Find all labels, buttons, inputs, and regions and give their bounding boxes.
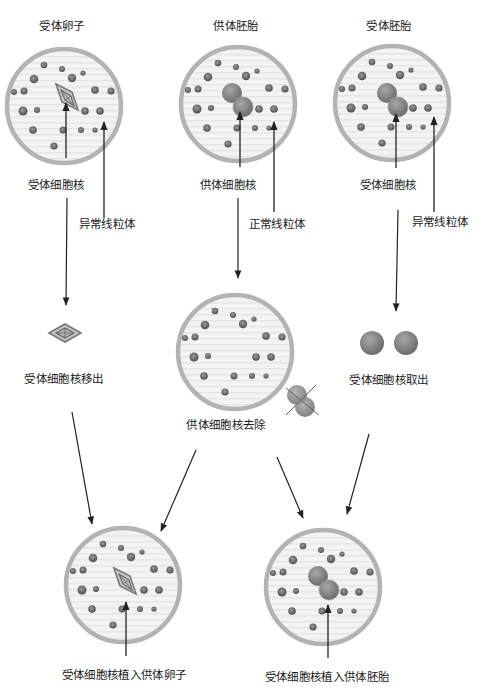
step-implant-into-egg: 受体细胞核植入供体卵子 <box>62 666 186 682</box>
step-nucleus-removed: 受体细胞核移出 <box>24 370 103 386</box>
donor-embryo-cell <box>181 47 295 161</box>
title-recipient-embryo: 受体胚胎 <box>366 17 411 33</box>
diagram-graphics <box>0 0 482 688</box>
process-arrow <box>277 457 303 518</box>
recipient-embryo-cell <box>335 46 449 160</box>
extracted-recipient-pronuclei <box>360 331 418 355</box>
step-nucleus-extracted: 受体细胞核取出 <box>349 371 428 387</box>
discarded-donor-nuclei <box>286 385 319 417</box>
label-abnormal-mitochondria-2: 异常线粒体 <box>412 213 469 229</box>
process-arrow <box>161 450 196 531</box>
label-recipient-nucleus: 受体细胞核 <box>28 176 85 192</box>
label-abnormal-mitochondria: 异常线粒体 <box>79 215 136 231</box>
process-arrow <box>396 210 398 311</box>
label-normal-mitochondria: 正常线粒体 <box>249 215 306 231</box>
title-donor-embryo: 供体胚胎 <box>213 17 258 33</box>
label-recipient-nucleus-2: 受体细胞核 <box>360 176 417 192</box>
mitochondrial-replacement-diagram: 受体卵子 供体胚胎 受体胚胎 受体细胞核 异常线粒体 供体细胞核 正常线粒体 受… <box>0 0 482 688</box>
reconstructed-embryo <box>266 530 380 644</box>
step-implant-into-embryo: 受体细胞核植入供体胚胎 <box>265 668 389 684</box>
label-donor-nucleus: 供体细胞核 <box>200 176 257 192</box>
step-donor-nucleus-removed: 供体细胞核去除 <box>186 416 265 432</box>
process-arrow <box>347 434 369 514</box>
process-arrow <box>66 198 67 305</box>
reconstructed-egg <box>66 528 180 642</box>
removed-spindle-nucleus <box>49 324 81 342</box>
process-arrow <box>72 412 92 524</box>
enucleated-donor-embryo <box>178 295 292 409</box>
title-recipient-egg: 受体卵子 <box>39 17 84 33</box>
